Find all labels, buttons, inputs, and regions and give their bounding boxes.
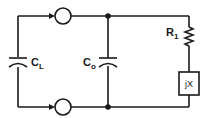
circuit-diagram: CL Co R1 jX [0,0,217,118]
resistor-zigzag [185,27,193,46]
capacitor-co [99,58,117,67]
capacitor-cl [9,58,27,67]
arrow-icon [49,13,55,19]
co-label: Co [83,56,96,71]
r1-label: R1 [166,26,179,41]
bottom-terminal-circle [55,99,71,115]
top-terminal-circle [55,8,71,24]
jx-label: jX [184,79,193,89]
capacitor-curved-plate [9,64,27,68]
arrow-icon [49,104,55,110]
cl-label: CL [31,56,44,71]
